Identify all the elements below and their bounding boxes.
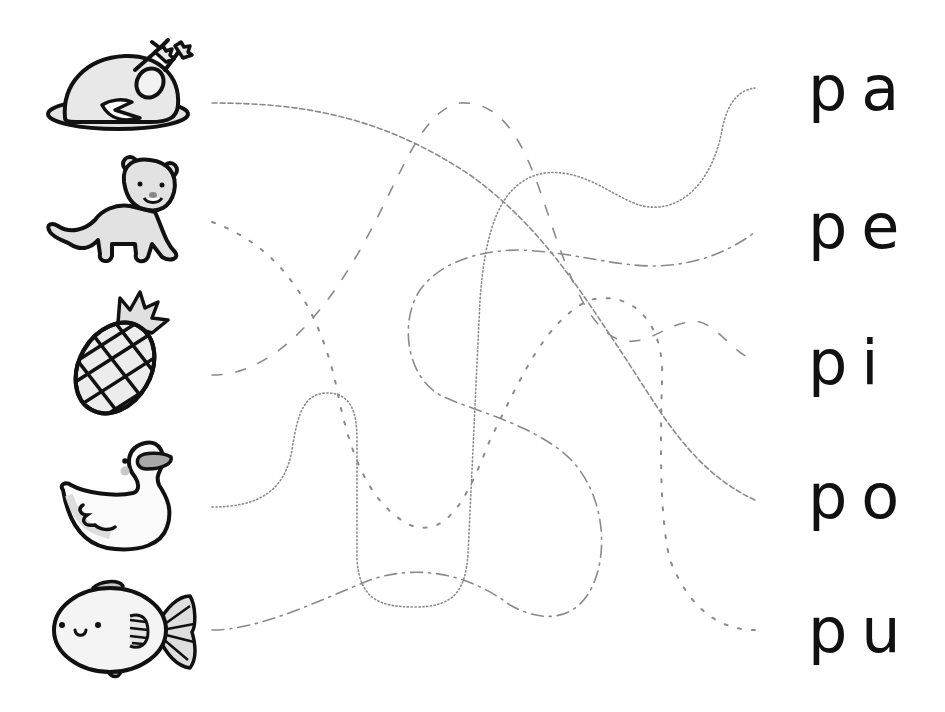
syllable-pa[interactable]: pa — [808, 58, 913, 120]
trace-pineapple-to-pi[interactable] — [212, 103, 755, 375]
picture-turkey[interactable]: roasted turkey (pavo) — [40, 30, 200, 140]
worksheet: roasted turkey (pavo) puma / big cat — [0, 0, 945, 712]
pineapple-icon — [70, 288, 175, 418]
syllable-po[interactable]: po — [808, 466, 913, 528]
cat-icon — [40, 152, 185, 267]
syllable-pi[interactable]: pi — [808, 332, 893, 394]
picture-fish[interactable]: fish (pez) — [48, 576, 198, 686]
picture-pineapple[interactable]: pineapple (piña) — [70, 288, 175, 418]
trace-duck-to-pa[interactable] — [212, 88, 755, 607]
syllable-pu[interactable]: pu — [808, 600, 915, 662]
picture-cat[interactable]: puma / big cat — [40, 152, 185, 267]
trace-cat-to-pu[interactable] — [212, 222, 755, 630]
fish-icon — [48, 576, 198, 686]
duck-icon — [55, 435, 180, 555]
picture-duck[interactable]: duck (pato) — [55, 435, 180, 555]
turkey-icon — [40, 30, 200, 140]
syllable-pe[interactable]: pe — [808, 196, 914, 258]
